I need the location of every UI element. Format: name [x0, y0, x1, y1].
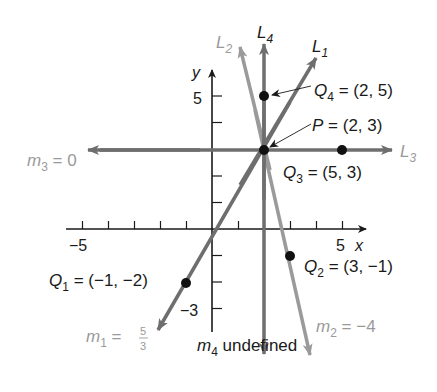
point-Q2 [285, 251, 295, 261]
x-tick-label-5: 5 [336, 237, 345, 254]
label-L2: L2 [216, 33, 232, 56]
label-L1: L1 [312, 37, 328, 60]
slope-label-m2: m2 = −4 [316, 317, 376, 340]
label-L3: L3 [400, 142, 416, 165]
point-Q4 [259, 91, 269, 101]
label-Q2: Q2 = (3, −1) [304, 257, 393, 280]
x-axis-label: x [354, 237, 364, 254]
label-Q3: Q3 = (5, 3) [283, 163, 362, 186]
slopes-diagram: y 5 −3 −5 5 x L2 L4 L1 L3 Q4 = (2, 5) P … [0, 0, 437, 392]
y-tick-label-neg3: −3 [180, 302, 198, 319]
svg-text:m1 =: m1 = [86, 327, 122, 350]
label-L4: L4 [257, 23, 273, 46]
slope-label-m4: m4 undefined [197, 336, 297, 359]
slope-label-m1: m1 = 5 3 [86, 325, 148, 352]
y-tick-label-5: 5 [193, 90, 202, 107]
y-axis [212, 70, 222, 332]
slope-label-m3: m3 = 0 [27, 151, 77, 174]
slope-m1-denominator: 3 [140, 340, 146, 352]
y-axis-label: y [191, 64, 201, 81]
x-tick-label-neg5: −5 [69, 237, 87, 254]
slope-m1-numerator: 5 [140, 325, 146, 337]
y-axis-ticks [212, 96, 222, 309]
point-P [259, 145, 269, 155]
point-Q3 [337, 145, 347, 155]
label-P: P = (2, 3) [312, 116, 382, 135]
line-L1 [158, 58, 316, 330]
label-Q4: Q4 = (2, 5) [314, 81, 393, 104]
leader-Q4 [272, 86, 311, 95]
point-Q1 [181, 278, 191, 288]
label-Q1: Q1 = (−1, −2) [49, 271, 148, 294]
line-L2 [240, 47, 310, 355]
